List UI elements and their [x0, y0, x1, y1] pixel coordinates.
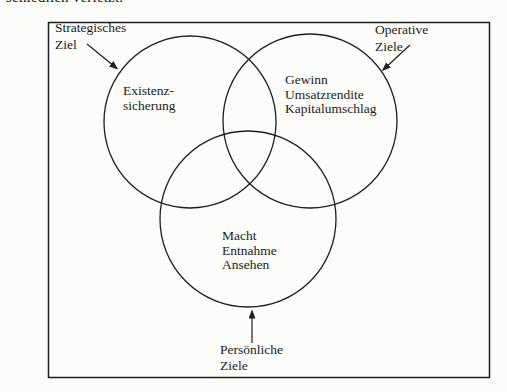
personal-goals-circle	[160, 131, 336, 307]
diagram-border	[49, 23, 490, 378]
personal-circle-text: Macht Entnahme Ansehen	[222, 229, 277, 273]
strategic-goal-circle	[104, 36, 276, 208]
operative-goals-label: Operative Ziele	[375, 22, 428, 55]
venn-diagram	[0, 0, 507, 392]
strategic-circle-text: Existenz- sicherung	[123, 84, 175, 113]
strategic-goal-label: Strategisches Ziel	[55, 20, 126, 53]
operative-circle-text: Gewinn Umsatzrendite Kapitalumschlag	[285, 73, 376, 117]
scanned-page: schiedlich verletzt. Strategisches Ziel …	[0, 0, 507, 392]
personal-goals-label: Persönliche Ziele	[220, 342, 283, 373]
